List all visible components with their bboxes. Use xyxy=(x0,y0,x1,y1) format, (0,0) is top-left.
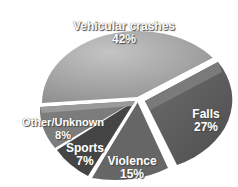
label-name: Other/Unknown xyxy=(8,116,118,129)
label-pct: 7% xyxy=(62,155,108,168)
label-pct: 42% xyxy=(64,33,184,46)
label-falls: Falls 27% xyxy=(186,108,226,134)
label-other-unknown: Other/Unknown 8% xyxy=(8,116,118,142)
label-pct: 27% xyxy=(186,121,226,134)
label-pct: 8% xyxy=(8,129,118,142)
label-sports: Sports 7% xyxy=(62,142,108,168)
label-vehicular-crashes: Vehicular crashes 42% xyxy=(64,20,184,46)
label-pct: 15% xyxy=(102,168,162,181)
label-violence: Violence 15% xyxy=(102,155,162,181)
